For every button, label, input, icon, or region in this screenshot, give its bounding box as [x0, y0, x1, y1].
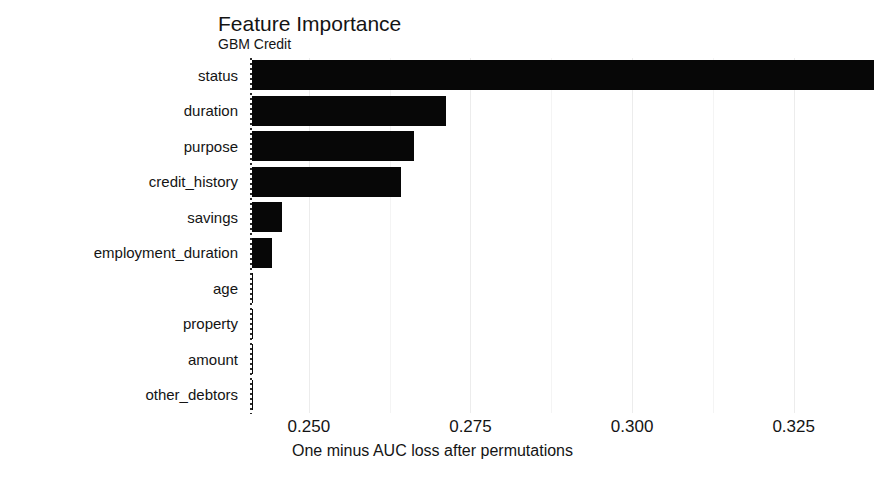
bar-series [252, 58, 868, 413]
x-axis-tick-0275: 0.275 [449, 417, 492, 437]
y-axis-label-credit-history: credit_history [0, 173, 238, 191]
bar-row [252, 342, 868, 378]
bar-property[interactable] [252, 309, 253, 339]
chart-title-block: Feature Importance GBM Credit [218, 12, 718, 53]
bar-amount[interactable] [252, 344, 253, 374]
bar-row [252, 236, 868, 272]
y-axis-label-status: status [0, 67, 238, 85]
bar-employment-duration[interactable] [252, 238, 272, 268]
chart-subtitle: GBM Credit [218, 36, 718, 53]
y-axis-labels: status duration purpose credit_history s… [0, 58, 238, 413]
bar-row [252, 129, 868, 165]
bar-row [252, 58, 868, 94]
bar-row [252, 378, 868, 414]
bar-row [252, 200, 868, 236]
bar-row [252, 165, 868, 201]
y-axis-label-age: age [0, 280, 238, 298]
bar-row [252, 94, 868, 130]
bar-savings[interactable] [252, 202, 282, 232]
x-axis-ticklabels: 0.250 0.275 0.300 0.325 [0, 417, 885, 439]
y-axis-label-employment-duration: employment_duration [0, 244, 238, 262]
x-axis-tick-0325: 0.325 [772, 417, 815, 437]
y-axis-label-other-debtors: other_debtors [0, 386, 238, 404]
y-axis-label-duration: duration [0, 102, 238, 120]
x-axis-title: One minus AUC loss after permutations [0, 441, 885, 460]
bar-age[interactable] [252, 273, 253, 303]
bar-credit-history[interactable] [252, 167, 401, 197]
y-axis-label-savings: savings [0, 209, 238, 227]
bar-status[interactable] [252, 60, 874, 90]
plot-area [252, 58, 868, 413]
page-title: Feature Importance [218, 12, 718, 36]
bar-other-debtors[interactable] [252, 380, 253, 410]
bar-purpose[interactable] [252, 131, 414, 161]
x-axis-title-text: One minus AUC loss after permutations [292, 441, 573, 460]
y-axis-label-property: property [0, 315, 238, 333]
chart-page: Feature Importance GBM Credit status dur… [0, 0, 885, 486]
y-axis-label-amount: amount [0, 351, 238, 369]
x-axis-tick-0300: 0.300 [611, 417, 654, 437]
x-axis-tick-0250: 0.250 [288, 417, 331, 437]
bar-row [252, 271, 868, 307]
bar-row [252, 307, 868, 343]
bar-duration[interactable] [252, 96, 446, 126]
y-axis-label-purpose: purpose [0, 138, 238, 156]
